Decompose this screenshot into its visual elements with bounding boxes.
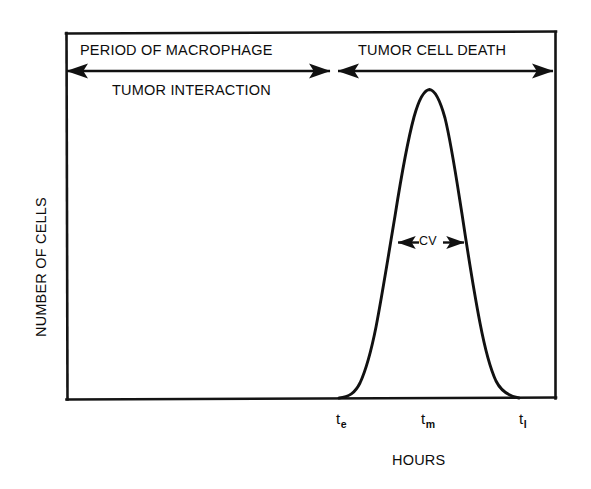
- figure-canvas: [0, 0, 591, 489]
- figure-container: NUMBER OF CELLS PERIOD OF MACROPHAGE TUM…: [0, 0, 591, 489]
- frame-left: [67, 33, 68, 400]
- tick-tm-base: t: [421, 410, 425, 427]
- cv-label: CV: [419, 235, 437, 248]
- tick-tm-sub: m: [426, 418, 436, 430]
- x-axis-line: [67, 398, 557, 400]
- y-axis-title: NUMBER OF CELLS: [34, 197, 49, 337]
- x-tick-label-te: te: [336, 411, 346, 426]
- x-tick-label-tl: tl: [519, 411, 527, 426]
- x-axis-title: HOURS: [392, 453, 445, 468]
- frame-top: [66, 32, 556, 34]
- tick-tl-base: t: [519, 410, 523, 427]
- phase-label-macrophage-line2: TUMOR INTERACTION: [112, 83, 271, 98]
- phase-label-tumor-cell-death: TUMOR CELL DEATH: [358, 43, 506, 58]
- phase-label-macrophage-line1: PERIOD OF MACROPHAGE: [80, 43, 273, 58]
- x-tick-label-tm: tm: [421, 411, 435, 426]
- tick-tl-sub: l: [524, 418, 527, 430]
- tick-te-sub: e: [341, 418, 347, 430]
- tick-te-base: t: [336, 410, 340, 427]
